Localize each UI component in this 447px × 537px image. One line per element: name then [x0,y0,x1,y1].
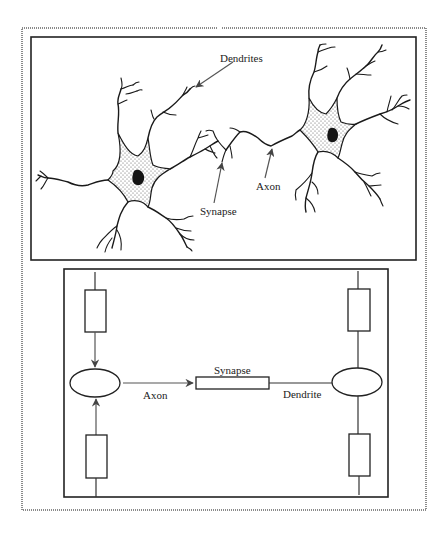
synapse-schematic-label: Synapse [214,364,251,376]
left-neuron-schematic [70,272,120,497]
axon-schematic-label: Axon [143,389,168,401]
synapse-label: Synapse [200,205,237,217]
bottom-panel: Axon Synapse Dendrite [64,269,388,497]
dendrites-pointer-arrow [196,62,233,87]
right-neuron-schematic [332,271,382,495]
axon-pointer-arrow [265,149,272,178]
axon-path [226,130,300,150]
right-neuron-nucleus [327,128,338,142]
dendrite-schematic-label: Dendrite [283,388,322,400]
synapse-element [196,377,269,389]
left-neuron [36,78,226,252]
top-panel-border [31,37,416,260]
resistor-bottom-right [349,434,370,476]
resistor-top-right [348,289,370,331]
right-neuron-soma [300,98,356,158]
right-neuron [295,44,410,212]
dendrites-label: Dendrites [220,52,263,64]
input-resistor-top-left [85,290,106,332]
neuron-diagram: Dendrites Synapse Axon Axon Synapse Dend… [0,0,447,537]
left-cell-body [70,369,120,397]
axon-label: Axon [256,180,281,192]
left-neuron-soma [108,133,170,207]
right-cell-body [332,368,382,396]
top-panel: Dendrites Synapse Axon [31,37,416,260]
input-resistor-bottom-left [86,435,107,478]
synapse-pointer-arrow [214,163,222,203]
